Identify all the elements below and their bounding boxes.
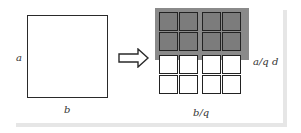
grid-cell bbox=[202, 32, 221, 51]
grid-cell bbox=[159, 32, 178, 51]
grid-cell bbox=[202, 12, 221, 31]
bottom-label-b: b bbox=[64, 105, 70, 115]
grid-cell bbox=[179, 75, 198, 94]
frame-shadow-right bbox=[283, 10, 287, 127]
grid-cell bbox=[179, 12, 198, 31]
original-square bbox=[27, 15, 108, 98]
frame-shadow-bottom bbox=[16, 123, 287, 127]
grid-cell bbox=[222, 12, 241, 31]
right-label-a-over-q-d: a/q d bbox=[253, 57, 278, 67]
grid-cell bbox=[202, 75, 221, 94]
grid-cell bbox=[222, 55, 241, 74]
grid-cell bbox=[179, 55, 198, 74]
grid-cell bbox=[202, 55, 221, 74]
grid-cell bbox=[222, 32, 241, 51]
bottom-label-b-over-q: b/q bbox=[193, 108, 209, 118]
grid-cell bbox=[159, 75, 178, 94]
side-label-a: a bbox=[16, 53, 22, 63]
grid-cell bbox=[159, 55, 178, 74]
grid-cell bbox=[179, 32, 198, 51]
grid-cell bbox=[222, 75, 241, 94]
hollow-right-arrow-icon bbox=[118, 48, 150, 68]
grid-cell bbox=[159, 12, 178, 31]
